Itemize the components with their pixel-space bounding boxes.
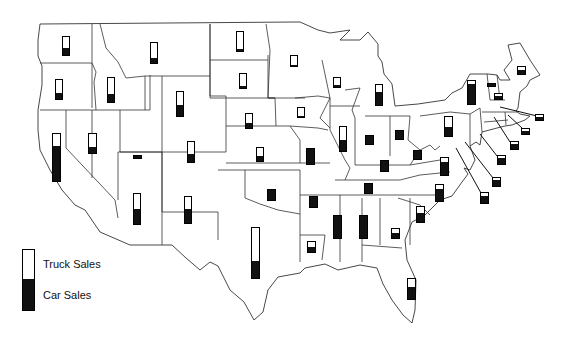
state-bar-fl bbox=[407, 278, 416, 300]
car-sales-fill bbox=[298, 116, 304, 117]
car-sales-fill bbox=[392, 233, 399, 238]
car-sales-fill bbox=[334, 85, 340, 87]
state-bar-tn bbox=[364, 183, 373, 194]
legend-swatch-bar bbox=[22, 249, 35, 311]
car-sales-fill bbox=[365, 184, 372, 193]
state-bar-ct bbox=[510, 141, 519, 150]
car-sales-fill bbox=[268, 190, 275, 200]
car-sales-fill bbox=[185, 209, 191, 223]
car-sales-fill bbox=[493, 180, 500, 186]
car-sales-fill bbox=[334, 216, 341, 238]
state-bar-ne bbox=[245, 113, 253, 129]
state-bar-la bbox=[307, 241, 316, 253]
state-bar-ri bbox=[521, 128, 530, 135]
state-bar-nj bbox=[497, 155, 506, 165]
car-sales-fill bbox=[340, 140, 346, 151]
car-sales-fill bbox=[441, 162, 448, 175]
car-sales-fill bbox=[257, 156, 263, 161]
state-bar-wv bbox=[413, 150, 422, 160]
state-bar-co bbox=[187, 141, 195, 163]
car-sales-fill bbox=[417, 213, 424, 222]
car-sales-fill bbox=[445, 127, 452, 136]
car-sales-fill bbox=[134, 156, 141, 158]
state-bar-mi bbox=[375, 84, 383, 106]
car-sales-fill bbox=[53, 146, 60, 181]
state-bar-in bbox=[365, 135, 374, 145]
state-bar-or bbox=[55, 79, 63, 100]
state-bar-ms bbox=[333, 215, 342, 239]
state-bar-mn bbox=[290, 55, 298, 67]
car-sales-fill bbox=[408, 287, 415, 299]
state-bar-nd bbox=[236, 31, 244, 52]
car-sales-fill bbox=[366, 136, 373, 144]
state-bar-az bbox=[133, 193, 141, 225]
us-outline bbox=[38, 22, 540, 323]
state-bar-ga bbox=[391, 228, 400, 239]
state-bar-pa bbox=[444, 116, 453, 137]
car-sales-fill bbox=[56, 93, 62, 99]
car-sales-fill bbox=[436, 189, 443, 201]
state-bar-sd bbox=[239, 73, 247, 89]
legend-truck-sales: Truck Sales bbox=[43, 258, 101, 270]
state-bar-id bbox=[107, 77, 115, 103]
state-bar-ia bbox=[297, 107, 305, 118]
car-sales-fill bbox=[307, 149, 314, 164]
state-bar-nc bbox=[435, 184, 444, 202]
state-bar-me bbox=[517, 66, 526, 75]
state-bar-ok bbox=[267, 189, 276, 201]
state-bar-ks bbox=[256, 147, 264, 162]
car-sales-fill bbox=[151, 58, 157, 63]
car-sales-fill bbox=[488, 84, 495, 86]
car-sales-fill bbox=[468, 84, 475, 104]
car-sales-fill bbox=[376, 92, 382, 105]
car-sales-fill bbox=[481, 196, 488, 204]
state-bar-ar bbox=[309, 196, 318, 208]
state-bar-nm bbox=[184, 196, 192, 224]
state-bar-ma bbox=[535, 114, 544, 121]
car-sales-fill bbox=[240, 86, 246, 88]
car-sales-fill bbox=[246, 123, 252, 128]
state-bar-ky bbox=[380, 160, 389, 172]
car-sales-fill bbox=[89, 147, 96, 153]
car-sales-fill bbox=[252, 261, 259, 279]
state-bar-il bbox=[339, 126, 347, 152]
state-bar-al bbox=[359, 215, 368, 239]
car-sales-fill bbox=[308, 247, 315, 253]
state-bar-mo bbox=[306, 148, 315, 165]
state-bar-ca bbox=[52, 133, 61, 182]
state-bar-de bbox=[492, 177, 501, 187]
car-sales-fill bbox=[414, 151, 421, 159]
car-sales-fill bbox=[134, 209, 140, 224]
state-bar-sc bbox=[416, 206, 425, 223]
car-sales-fill bbox=[396, 131, 403, 139]
state-bar-mt bbox=[150, 42, 158, 64]
car-sales-fill bbox=[237, 49, 243, 51]
car-sales-fill bbox=[177, 105, 183, 116]
car-sales-fill bbox=[498, 158, 505, 164]
state-bar-wy bbox=[176, 91, 184, 117]
state-bar-nh bbox=[494, 93, 503, 100]
state-bar-va bbox=[440, 157, 449, 176]
car-sales-fill bbox=[511, 144, 518, 149]
car-sales-fill bbox=[495, 96, 502, 99]
state-bar-wa bbox=[62, 36, 70, 56]
state-bar-ny bbox=[467, 80, 476, 105]
car-sales-fill bbox=[108, 94, 114, 102]
legend-car-sales: Car Sales bbox=[43, 289, 91, 301]
car-sales-fill bbox=[360, 216, 367, 238]
state-bar-nv bbox=[88, 133, 97, 154]
state-bar-tx bbox=[251, 227, 260, 279]
car-sales-fill bbox=[310, 197, 317, 207]
state-bar-oh bbox=[395, 130, 404, 140]
car-sales-fill bbox=[381, 161, 388, 171]
car-sales-fill bbox=[518, 70, 525, 74]
car-sales-fill bbox=[188, 154, 194, 162]
state-bar-ut bbox=[133, 155, 142, 159]
car-sales-fill bbox=[522, 131, 529, 134]
state-bar-wi bbox=[333, 77, 341, 88]
state-bar-vt bbox=[487, 83, 496, 87]
car-sales-fill bbox=[291, 65, 297, 67]
state-bar-md bbox=[480, 192, 489, 204]
car-sales-fill bbox=[63, 48, 69, 55]
car-sales-fill bbox=[536, 117, 543, 120]
